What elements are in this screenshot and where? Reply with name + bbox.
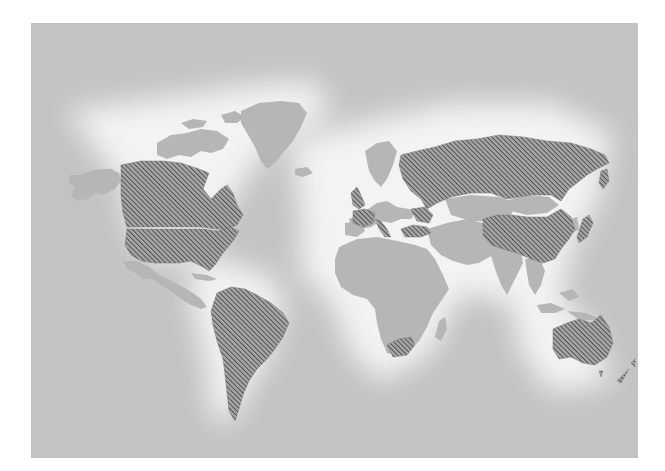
world-map-canvas	[31, 23, 638, 458]
world-map	[31, 23, 638, 458]
